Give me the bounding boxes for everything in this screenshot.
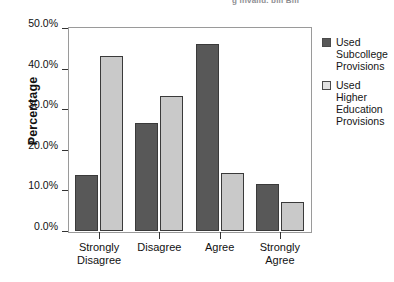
- legend-label: Used Subcollege Provisions: [336, 36, 394, 72]
- x-axis-tick: [99, 232, 100, 239]
- legend-swatch-higher-education: [322, 81, 331, 90]
- bar-subcollege: [75, 175, 98, 231]
- x-axis-tick: [159, 232, 160, 239]
- bar-higher-education: [221, 173, 244, 231]
- legend-entry: Used Subcollege Provisions: [322, 36, 394, 72]
- scan-header-fragment: g invalid. bill Bill: [232, 0, 392, 7]
- bar-higher-education: [281, 202, 304, 231]
- y-axis-tick-label: 20.0%: [0, 145, 58, 146]
- y-axis-tick-label: 30.0%: [0, 104, 58, 105]
- legend-swatch-subcollege: [322, 38, 331, 47]
- bar-subcollege: [196, 44, 219, 231]
- y-axis-tick-label: 50.0%: [0, 23, 58, 24]
- chart-legend: Used Subcollege ProvisionsUsed Higher Ed…: [322, 36, 394, 134]
- y-axis-tick-label: 40.0%: [0, 64, 58, 65]
- y-axis-tick-label: 0.0%: [0, 226, 58, 227]
- chart-figure: g invalid. bill Bill Percentage 0.0%10.0…: [0, 0, 394, 282]
- bar-subcollege: [256, 184, 279, 231]
- bars-layer: [69, 28, 310, 231]
- bar-higher-education: [160, 96, 183, 231]
- x-axis-tick: [220, 232, 221, 239]
- legend-entry: Used Higher Education Provisions: [322, 79, 394, 127]
- legend-label: Used Higher Education Provisions: [336, 79, 394, 127]
- x-axis-tick: [280, 232, 281, 239]
- y-axis-tick-label: 10.0%: [0, 185, 58, 186]
- bar-higher-education: [100, 56, 123, 231]
- x-axis-category-label: StronglyAgree: [240, 241, 320, 266]
- bar-subcollege: [135, 123, 158, 231]
